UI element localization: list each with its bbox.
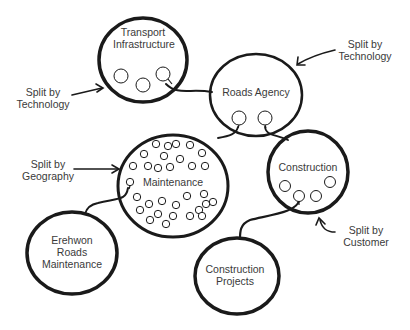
sub-circle xyxy=(311,191,322,202)
annotation-line: Split by xyxy=(336,38,394,50)
node-construction-label: Construction xyxy=(276,161,340,173)
node-maintenance-label: Maintenance xyxy=(140,176,206,188)
label-line: Maintenance xyxy=(140,176,206,188)
annotation-line: Split by xyxy=(340,224,392,236)
node-roads-label: Roads Agency xyxy=(216,86,296,98)
label-line: Construction xyxy=(202,263,268,275)
sub-circle xyxy=(294,191,305,202)
annotation-line: Customer xyxy=(340,236,392,248)
label-line: Projects xyxy=(202,275,268,287)
label-line: Maintenance xyxy=(37,258,107,270)
label-line: Erehwon xyxy=(37,234,107,246)
diagram-canvas: Transport Infrastructure Roads Agency Ma… xyxy=(0,0,410,330)
sub-circle xyxy=(232,111,246,125)
label-line: Infrastructure xyxy=(113,38,173,50)
node-transport-label: Transport Infrastructure xyxy=(113,26,173,50)
label-line: Roads xyxy=(37,246,107,258)
annotation-line: Technology xyxy=(336,50,394,62)
annotation-split-by-geography: Split by Geography xyxy=(22,158,74,182)
sub-circle xyxy=(136,78,150,92)
annotation-line: Split by xyxy=(14,86,72,98)
annotation-line: Split by xyxy=(22,158,74,170)
annotation-line: Technology xyxy=(14,98,72,110)
label-line: Construction xyxy=(276,161,340,173)
edge-construction-projects xyxy=(240,200,299,239)
sub-circle xyxy=(325,177,336,188)
node-projects-label: Construction Projects xyxy=(202,263,268,287)
label-line: Transport xyxy=(113,26,173,38)
sub-circle xyxy=(280,181,291,192)
node-erehwon-label: Erehwon Roads Maintenance xyxy=(37,234,107,270)
label-line: Roads Agency xyxy=(216,86,296,98)
arrow-tech-right xyxy=(298,50,335,64)
annotation-split-by-technology-right: Split by Technology xyxy=(336,38,394,62)
sub-circle xyxy=(156,67,170,81)
annotation-split-by-customer: Split by Customer xyxy=(340,224,392,248)
sub-circle xyxy=(258,111,272,125)
sub-circle xyxy=(114,69,128,83)
annotation-line: Geography xyxy=(22,170,74,182)
annotation-split-by-technology-left: Split by Technology xyxy=(14,86,72,110)
